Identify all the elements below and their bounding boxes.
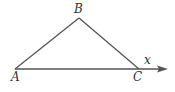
ray-label-x: x <box>144 53 151 67</box>
vertex-label-b: B <box>73 2 83 16</box>
vertex-label-c: C <box>133 70 142 84</box>
triangle-diagram: A B C x <box>0 0 175 92</box>
edge-ab <box>15 18 79 69</box>
vertex-label-a: A <box>10 70 20 84</box>
edge-bc <box>79 18 139 69</box>
